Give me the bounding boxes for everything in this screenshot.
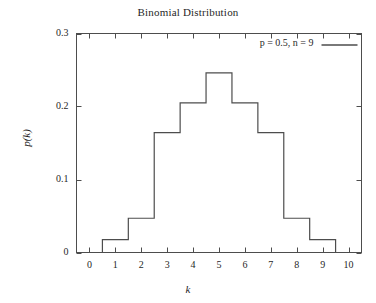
x-tick-label: 4 xyxy=(180,259,206,270)
histogram-step-line xyxy=(77,73,362,253)
x-tick-label: 2 xyxy=(128,259,154,270)
y-axis-ticks xyxy=(77,35,362,254)
x-tick-label: 1 xyxy=(102,259,128,270)
x-tick-label: 9 xyxy=(310,259,336,270)
x-tick-label: 6 xyxy=(232,259,258,270)
x-tick-label: 3 xyxy=(154,259,180,270)
x-tick-label: 10 xyxy=(336,259,362,270)
x-tick-label: 5 xyxy=(206,259,232,270)
x-tick-label: 0 xyxy=(76,259,102,270)
plot-frame xyxy=(77,34,362,253)
chart-figure: Binomial Distribution p(k) k 0 0.1 0.2 0… xyxy=(0,0,376,303)
x-tick-label: 7 xyxy=(258,259,284,270)
x-tick-label: 8 xyxy=(284,259,310,270)
